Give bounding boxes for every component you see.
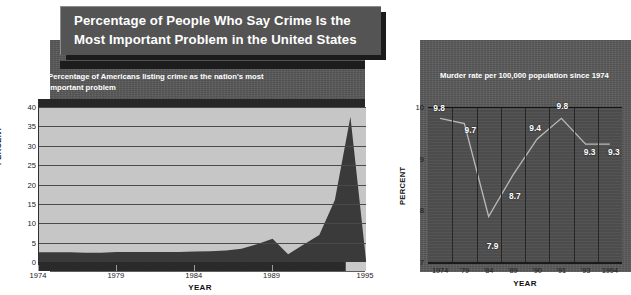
left-gridline [39,204,366,205]
left-plot-top-band [38,99,365,107]
left-y-tick-label: 10 [14,219,36,228]
left-x-tick-label: 1989 [263,271,280,280]
right-data-label: 8.7 [509,191,521,201]
left-x-tick-label: 1979 [107,271,124,280]
right-data-label: 9.4 [529,123,541,133]
right-gridline [501,108,502,263]
right-x-tick-label: '84 [484,266,494,275]
right-y-axis-title: PERCENT [398,167,407,205]
left-x-tick-label: 1974 [30,271,47,280]
right-data-label: 9.8 [433,103,445,113]
right-data-label: 9.8 [557,101,569,111]
left-y-tick-label: 5 [14,239,36,248]
right-gridline [574,108,575,263]
right-x-tick-label: '90 [532,266,542,275]
infographic-root: Percentage of People Who Say Crime Is th… [0,0,631,295]
left-y-tick-label: 0 [14,258,36,267]
page-title: Percentage of People Who Say Crime Is th… [74,12,374,49]
left-gridline [39,107,366,108]
left-gridline [39,223,366,224]
right-gridline [549,108,550,263]
right-x-axis-ticks: 1974'79'84'89'90'91'931994 [380,266,631,280]
left-y-tick-label: 40 [14,103,36,112]
right-data-label: 9.3 [584,147,596,157]
source-footnote [30,287,450,295]
right-y-axis-ticks: 78910 [404,100,424,270]
right-x-tick-label: '91 [557,266,567,275]
left-gridline [39,165,366,166]
right-x-axis-title: YEAR [460,279,590,288]
right-gridline [525,108,526,263]
right-y-tick-label: 9 [404,155,424,164]
right-x-tick-label: 1994 [602,266,618,275]
right-data-label: 9.7 [465,125,477,135]
right-y-tick-label: 8 [404,206,424,215]
left-chart-subtitle: Percentage of Americans listing crime as… [48,72,298,93]
right-data-label: 7.9 [487,241,499,251]
right-y-tick-label: 10 [404,103,424,112]
right-data-label: 9.3 [608,147,620,157]
left-x-tick-label: 1984 [185,271,202,280]
right-x-tick-label: '93 [581,266,591,275]
left-plot-area [38,107,366,262]
left-panel-dark-strip [60,61,365,69]
left-y-tick-label: 30 [14,142,36,151]
right-x-axis-line [428,262,622,264]
left-y-axis-ticks: 0510152025303540 [14,100,36,270]
left-x-axis-band [38,262,365,271]
right-chart-subtitle: Murder rate per 100,000 population since… [440,71,625,82]
left-gridline [39,185,366,186]
left-x-tick-label: 1995 [357,271,374,280]
left-gridline [39,146,366,147]
title-plaque: Percentage of People Who Say Crime Is th… [60,6,381,55]
right-gridline [452,108,453,263]
right-gridline [598,108,599,263]
left-y-axis-title: PERCENT [0,127,3,165]
right-gridline [477,108,478,263]
left-y-tick-label: 35 [14,122,36,131]
left-gridline [39,126,366,127]
right-plot-area [428,107,622,263]
left-y-tick-label: 25 [14,161,36,170]
left-y-tick-label: 15 [14,200,36,209]
right-x-tick-label: 1974 [432,266,448,275]
right-x-tick-label: '89 [508,266,518,275]
left-axis-end-block [345,262,366,271]
right-x-tick-label: '79 [460,266,470,275]
left-y-tick-label: 20 [14,181,36,190]
left-gridline [39,243,366,244]
